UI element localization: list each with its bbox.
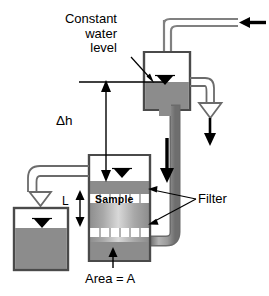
inlet-pipe	[164, 19, 238, 52]
filter-label: Filter	[198, 192, 227, 207]
permeability-diagram: Constant water level Δh L Sample Filter …	[0, 0, 269, 296]
constant-water-level-label: Constant water level	[65, 12, 117, 56]
overflow-pipe	[190, 78, 222, 118]
head-difference-label: Δh	[56, 113, 73, 128]
constant-label-line-1: Constant	[65, 12, 117, 27]
overflow-drop-arrow-icon	[204, 118, 216, 146]
constant-label-line-3: level	[65, 41, 117, 56]
sample-length-dimension	[76, 190, 85, 227]
area-label: Area = A	[85, 272, 135, 287]
sample-label: Sample	[95, 194, 134, 206]
constant-label-line-2: water	[65, 27, 117, 42]
collection-beaker	[14, 208, 68, 270]
inlet-flow-arrow-icon	[239, 17, 266, 28]
sample-length-label: L	[62, 195, 69, 208]
diagram-canvas	[0, 0, 269, 296]
